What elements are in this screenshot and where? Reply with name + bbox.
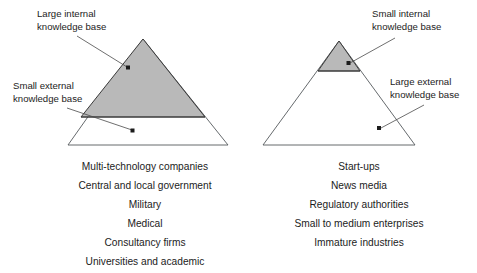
right-organisation-list: Start-ups News media Regulatory authorit… [294,161,423,248]
right-list-item-0: Start-ups [338,161,379,172]
arrow-head-small-internal [347,61,351,65]
left-triangle-group [68,39,228,145]
right-callout-large-external: Large external knowledge base [377,76,459,130]
left-callout-large-internal: Large internal knowledge base [37,8,130,70]
callout-small-internal-line2: knowledge base [372,21,441,32]
left-list-item-0: Multi-technology companies [82,161,208,172]
right-list-item-3: Small to medium enterprises [294,218,423,229]
right-list-item-2: Regulatory authorities [309,199,408,210]
callout-large-internal-line2: knowledge base [37,21,106,32]
diagram-canvas: Large internal knowledge base Small exte… [0,0,477,273]
callout-large-internal-line1: Large internal [37,8,96,19]
right-list-item-1: News media [331,180,387,191]
left-organisation-list: Multi-technology companies Central and l… [78,161,211,267]
arrow-head-small-external [131,129,135,133]
knowledge-base-diagram: Large internal knowledge base Small exte… [0,0,477,273]
left-list-item-1: Central and local government [78,180,211,191]
left-list-item-5: Universities and academic [86,256,205,267]
left-triangle-shaded-region [81,39,205,117]
leader-line-large-internal [77,36,127,67]
arrow-head-large-internal [126,66,130,70]
left-list-item-4: Consultancy firms [105,237,186,248]
callout-large-external-line1: Large external [390,76,451,87]
callout-small-external-line2: knowledge base [13,93,82,104]
right-list-item-4: Immature industries [314,237,403,248]
callout-large-external-line2: knowledge base [390,89,459,100]
callout-small-internal-line1: Small internal [372,8,430,19]
arrow-head-large-external [377,126,381,130]
callout-small-external-line1: Small external [13,80,74,91]
leader-line-large-external [381,105,424,128]
left-list-item-2: Military [129,199,162,210]
right-triangle-shaded-region [318,41,360,71]
left-list-item-3: Medical [127,218,162,229]
right-callout-small-internal: Small internal knowledge base [347,8,442,65]
leader-line-small-internal [350,38,395,63]
